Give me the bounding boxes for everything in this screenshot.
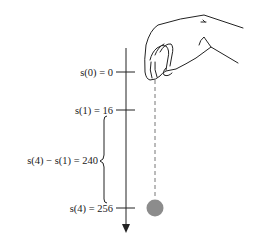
label-s0: s(0) = 0 — [80, 67, 113, 79]
label-s4: s(4) = 256 — [70, 203, 113, 215]
distance-brace — [100, 116, 107, 203]
ball — [147, 200, 164, 217]
axis-arrow-down-icon — [122, 224, 130, 233]
label-difference: s(4) − s(1) = 240 — [27, 155, 98, 167]
falling-ball-diagram: s(0) = 0 s(1) = 16 s(4) − s(1) = 240 s(4… — [0, 0, 253, 239]
hand-icon — [145, 15, 243, 80]
label-s1: s(1) = 16 — [75, 105, 113, 117]
